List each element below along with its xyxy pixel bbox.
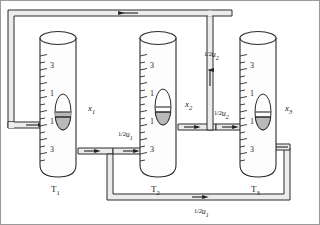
tube-T2	[140, 32, 176, 178]
tube-T3-rim	[240, 32, 276, 45]
tube-T2-scale-number-1: 1	[150, 89, 154, 98]
flow-label-u2-horizontal: 1/2u2	[214, 110, 229, 120]
tube-T3-scale-number-1: 1	[250, 89, 254, 98]
tube-T1-rim	[40, 32, 76, 45]
tube-T2-scale-number-2: 1	[150, 117, 154, 126]
tube-T1-label: T1	[51, 185, 60, 196]
flow-label-u2-vertical: 1/2u2	[204, 51, 219, 61]
tube-T2-rim	[140, 32, 176, 45]
flow-label-u1-bottom: 1/2u1	[194, 208, 209, 218]
tube-T3	[240, 32, 276, 178]
diagram-svg	[0, 0, 320, 225]
tube-T2-label: T2	[151, 185, 160, 196]
figure-canvas: 3 1 1 3 3 1 1 3 3 1 1 3 T1 T2 T3 x1 x2 x…	[0, 0, 320, 225]
tube-T3-scale-number-0: 3	[250, 61, 254, 70]
tube-T2-position-label: x2	[185, 100, 192, 111]
tube-T1-position-label: x1	[88, 104, 95, 115]
tube-T1-scale-number-1: 1	[50, 89, 54, 98]
tube-T3-scale-number-3: 3	[250, 145, 254, 154]
tube-T1-scale-number-2: 1	[50, 117, 54, 126]
tube-T2-scale-number-3: 3	[150, 145, 154, 154]
tube-T3-position-label: x3	[285, 104, 292, 115]
tube-T3-scale-number-2: 1	[250, 117, 254, 126]
tube-T1-scale-number-0: 3	[50, 61, 54, 70]
tube-T2-scale-number-0: 3	[150, 61, 154, 70]
tube-T1-scale-number-3: 3	[50, 145, 54, 154]
tube-T3-label: T3	[251, 185, 260, 196]
tube-T1	[40, 32, 76, 178]
flow-label-u1-mid: 1/2u1	[118, 131, 133, 141]
